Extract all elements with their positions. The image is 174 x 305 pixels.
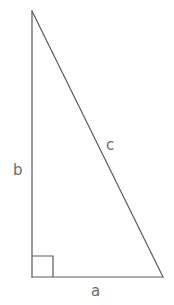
right-triangle-figure: b c a [0,0,174,305]
hypotenuse-c-line [32,11,163,277]
triangle-drawing [0,0,174,305]
label-side-c: c [106,138,114,153]
right-angle-marker-icon [32,256,53,277]
label-side-b: b [13,163,23,178]
label-side-a: a [91,284,100,299]
